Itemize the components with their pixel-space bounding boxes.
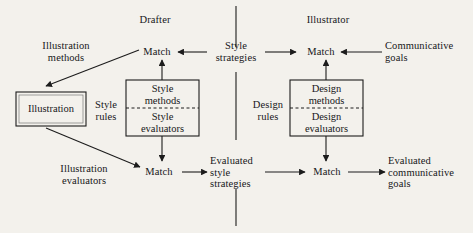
node-illustration-evaluators: Illustration evaluators	[42, 163, 126, 186]
process-flow-diagram	[0, 0, 473, 233]
node-match-bottom-right: Match	[304, 166, 350, 178]
node-evaluated-communicative-goals: Evaluated communicative goals	[388, 155, 473, 190]
node-match-bottom-left: Match	[136, 166, 182, 178]
node-match-top-right: Match	[298, 46, 344, 58]
node-evaluated-style-strategies: Evaluated style strategies	[210, 155, 270, 190]
node-style-evaluators: Style evaluators	[126, 111, 199, 134]
node-style-strategies: Style strategies	[206, 40, 266, 63]
column-header-illustrator: Illustrator	[288, 14, 368, 26]
node-match-top-left: Match	[134, 46, 180, 58]
column-header-drafter: Drafter	[120, 14, 190, 26]
node-illustration-methods: Illustration methods	[24, 40, 108, 63]
node-illustration: Illustration	[16, 103, 86, 115]
node-style-methods: Style methods	[126, 83, 199, 106]
node-design-evaluators: Design evaluators	[290, 111, 363, 134]
node-design-methods: Design methods	[290, 83, 363, 106]
node-design-rules: Design rules	[246, 99, 290, 122]
node-communicative-goals: Communicative goals	[385, 40, 473, 63]
node-style-rules: Style rules	[88, 99, 124, 122]
